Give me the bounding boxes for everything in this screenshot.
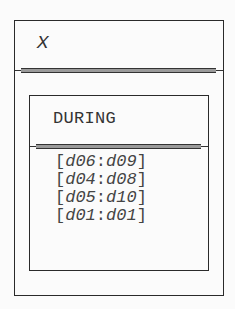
range-item: [d06:d09] [55,153,147,171]
inner-double-separator [36,144,201,149]
outer-double-separator [21,68,216,73]
range-list: [d06:d09] [d04:d08] [d05:d10] [d01:d01] [55,153,147,225]
outer-class-name: X [37,33,48,53]
range-item: [d01:d01] [55,207,147,225]
inner-class-name: DURING [53,109,116,129]
range-item: [d04:d08] [55,171,147,189]
range-item: [d05:d10] [55,189,147,207]
